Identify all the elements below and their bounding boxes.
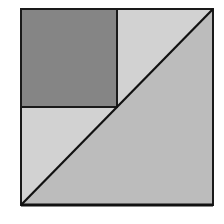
geometry-diagram xyxy=(0,0,224,224)
dark-square xyxy=(21,9,117,107)
